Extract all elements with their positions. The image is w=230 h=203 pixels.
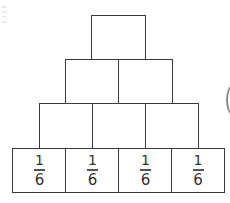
pyramid-cell-r4-c1: 1 6 [12,148,67,193]
pyramid-cell-r3-c1[interactable] [39,103,94,149]
denominator: 6 [88,173,98,188]
pyramid-cell-r1-c1[interactable] [91,15,146,60]
pyramid-cell-r3-c3[interactable] [145,103,199,149]
fraction: 1 6 [66,149,119,192]
denominator: 6 [35,173,45,188]
fraction-pyramid: 1 6 1 6 1 6 1 6 [0,0,230,203]
partial-circle-edge [226,85,230,115]
pyramid-cell-r3-c2[interactable] [92,103,147,149]
pyramid-cell-r2-c1[interactable] [65,59,120,104]
scan-artifact [2,6,7,26]
numerator: 1 [141,153,150,167]
pyramid-cell-r4-c3: 1 6 [118,148,173,193]
numerator: 1 [194,153,203,167]
fraction: 1 6 [13,149,66,192]
fraction: 1 6 [172,149,224,192]
pyramid-cell-r4-c2: 1 6 [65,148,120,193]
fraction: 1 6 [119,149,172,192]
pyramid-cell-r4-c4: 1 6 [171,148,225,193]
numerator: 1 [88,153,97,167]
denominator: 6 [141,173,151,188]
denominator: 6 [193,173,203,188]
numerator: 1 [35,153,44,167]
pyramid-cell-r2-c2[interactable] [118,59,173,104]
